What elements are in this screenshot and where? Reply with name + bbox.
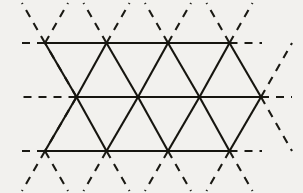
lattice-svg-canvas — [0, 0, 303, 193]
lattice-figure — [0, 0, 303, 193]
